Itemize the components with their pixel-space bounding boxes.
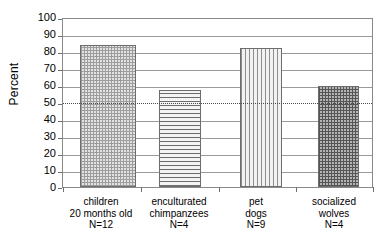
y-tickmark-90: [58, 36, 62, 37]
y-tick-30: 30: [16, 131, 56, 142]
x-label-pet-dogs: pet dogs N=9: [217, 196, 295, 231]
y-tickmark-80: [58, 53, 62, 54]
bar-pet-dogs[interactable]: [240, 48, 282, 187]
x-label-dogs-line3: N=9: [217, 219, 295, 231]
x-label-wolves-line3: N=4: [295, 219, 373, 231]
x-label-chimpanzees-line3: N=4: [140, 219, 218, 231]
gridline-90: [63, 36, 372, 37]
x-label-socialized-wolves: socialized wolves N=4: [295, 196, 373, 231]
x-label-dogs-line1: pet: [217, 196, 295, 208]
x-label-wolves-line1: socialized: [295, 196, 373, 208]
y-tickmark-100: [58, 19, 62, 20]
x-label-chimpanzees-line2: chimpanzees: [140, 208, 218, 220]
y-tickmark-70: [58, 70, 62, 71]
y-tick-60: 60: [16, 80, 56, 91]
y-tickmark-40: [58, 121, 62, 122]
y-tickmark-50: [58, 104, 62, 105]
y-tick-40: 40: [16, 114, 56, 125]
y-tick-90: 90: [16, 29, 56, 40]
x-tickmark-2: [219, 187, 220, 192]
x-tickmark-4: [373, 187, 374, 192]
y-tick-20: 20: [16, 148, 56, 159]
y-tickmark-30: [58, 138, 62, 139]
bar-enculturated-chimpanzees[interactable]: [159, 90, 201, 187]
x-label-children-line2: 20 months old: [62, 208, 140, 220]
y-tickmark-20: [58, 155, 62, 156]
x-label-children-line1: children: [62, 196, 140, 208]
bar-socialized-wolves[interactable]: [318, 86, 359, 187]
y-tick-100: 100: [16, 12, 56, 23]
y-tick-70: 70: [16, 63, 56, 74]
y-tick-10: 10: [16, 165, 56, 176]
bar-chart: Percent 0 10 20 30 40 50 60 70 80 90 100: [0, 0, 389, 241]
y-tick-80: 80: [16, 46, 56, 57]
x-label-enculturated-chimpanzees: enculturated chimpanzees N=4: [140, 196, 218, 231]
plot-area: [62, 18, 373, 188]
x-tickmark-1: [141, 187, 142, 192]
y-tickmark-10: [58, 172, 62, 173]
x-label-children-line3: N=12: [62, 219, 140, 231]
y-axis-tick-labels: 0 10 20 30 40 50 60 70 80 90 100: [0, 18, 62, 188]
reference-line-50: [63, 103, 372, 104]
x-label-children: children 20 months old N=12: [62, 196, 140, 231]
y-tickmark-60: [58, 87, 62, 88]
x-label-dogs-line2: dogs: [217, 208, 295, 220]
x-tickmark-0: [63, 187, 64, 192]
y-tick-0: 0: [16, 182, 56, 193]
y-tickmark-0: [58, 188, 62, 189]
x-tickmark-3: [296, 187, 297, 192]
x-label-chimpanzees-line1: enculturated: [140, 196, 218, 208]
bar-children[interactable]: [80, 45, 136, 187]
x-label-wolves-line2: wolves: [295, 208, 373, 220]
y-tick-50: 50: [16, 97, 56, 108]
